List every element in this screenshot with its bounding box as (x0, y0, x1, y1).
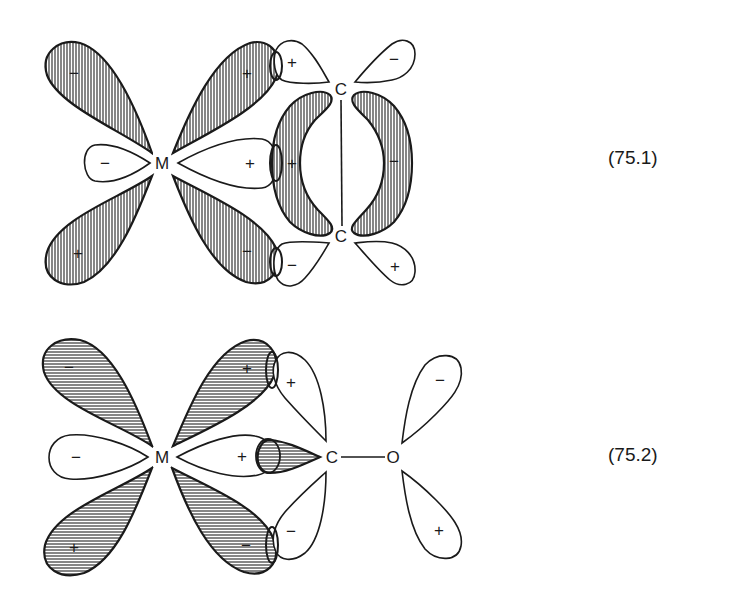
sign-upper-left: − (69, 64, 79, 83)
sign-upper-left: − (64, 358, 74, 377)
sign-axial-right: + (245, 154, 255, 173)
atom-carbon-bottom: C (335, 227, 347, 246)
orbital-diagrams: M C C − + + − − + + − + − − + (0, 0, 753, 597)
sign-upper-right: + (242, 359, 252, 378)
sign-c-bottom-left: − (287, 256, 297, 275)
sign-lower-left: + (73, 244, 83, 263)
sign-upper-right: + (242, 64, 252, 83)
atom-carbon-top: C (335, 80, 347, 99)
metal-lobe-upper-left (46, 42, 152, 153)
c-c-bond (341, 100, 342, 226)
sign-axial-left: − (71, 448, 81, 467)
sign-c-bottom-right: + (390, 257, 400, 276)
sign-o-lower: + (434, 521, 444, 540)
metal-lobe-lower-right (172, 468, 276, 573)
metal-lobe-lower-right (173, 176, 278, 283)
carbon-sigma-lobe (258, 440, 320, 473)
c-lobe-lower (273, 472, 326, 559)
sign-c-top-right: − (389, 50, 399, 69)
c-lobe-upper (273, 352, 326, 441)
metal-lobe-upper-right (173, 42, 279, 153)
metal-lobe-lower-left (44, 468, 152, 575)
equation-label-75-2: (75.2) (608, 444, 658, 466)
sign-c-top-left: + (287, 53, 297, 72)
sign-lower-right: − (242, 242, 252, 261)
atom-oxygen: O (386, 448, 399, 467)
metal-lobe-axial-right (178, 139, 277, 189)
metal-lobe-axial-left (49, 435, 148, 479)
sign-lower-right: − (241, 536, 251, 555)
sign-pi-left: + (287, 154, 297, 173)
sign-o-upper: − (435, 371, 445, 390)
metal-lobe-lower-left (46, 176, 152, 284)
sign-axial-left: − (100, 154, 110, 173)
sign-axial-right: + (237, 447, 247, 466)
pi-lobe-right (352, 92, 412, 236)
atom-carbon: C (326, 448, 338, 467)
atom-metal: M (155, 448, 169, 467)
atom-metal: M (155, 154, 169, 173)
figure-75-2: M C O − + + − − + + − − + (43, 339, 461, 575)
sign-lower-left: + (69, 538, 79, 557)
equation-label-75-1: (75.1) (608, 147, 658, 169)
sign-c-upper: + (286, 373, 296, 392)
c-top-lobe-right (355, 40, 415, 82)
metal-lobe-axial-left (84, 145, 150, 182)
figure-75-1: M C C − + + − − + + − + − − + (46, 40, 415, 286)
sign-c-lower: − (286, 522, 296, 541)
metal-lobe-upper-left (43, 339, 152, 446)
o-lobe-upper (402, 356, 461, 443)
c-bottom-lobe-right (355, 241, 415, 284)
metal-lobe-upper-right (173, 340, 276, 446)
sign-pi-right: − (389, 152, 399, 171)
o-lobe-lower (402, 471, 461, 558)
